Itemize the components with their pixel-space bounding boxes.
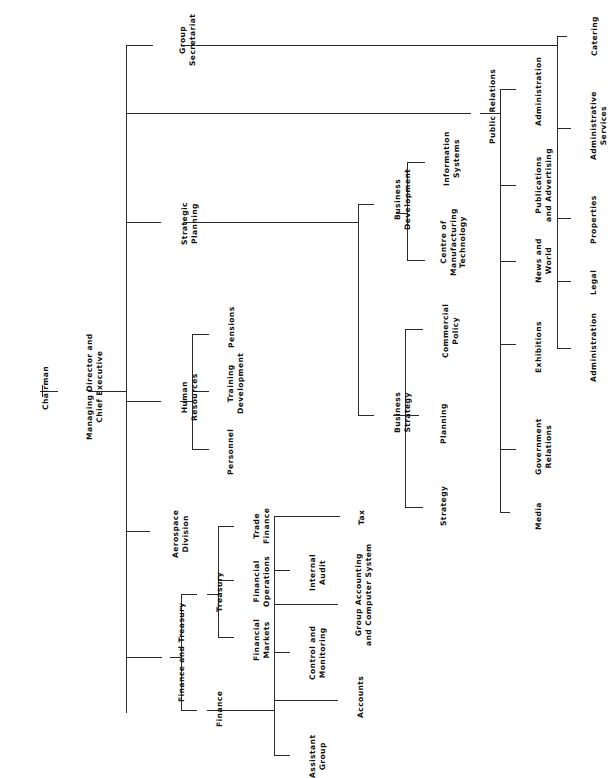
node-pr-administration: Administration bbox=[515, 57, 563, 126]
connector bbox=[274, 700, 338, 701]
node-strategic-planning: StrategicPlanning bbox=[161, 202, 218, 245]
node-legal: Legal bbox=[570, 270, 611, 295]
connector bbox=[274, 755, 290, 756]
connector bbox=[181, 594, 197, 595]
node-financial-operations: FinancialOperations bbox=[233, 556, 290, 607]
connector bbox=[557, 128, 571, 129]
node-group-secretariat: GroupSecretariat bbox=[159, 14, 216, 66]
node-media: Media bbox=[515, 502, 563, 530]
node-group-accounting: Group Accountingand Computer System bbox=[335, 543, 392, 646]
node-managing-director: Managing Director andChief Executive bbox=[66, 333, 123, 440]
main-trunk bbox=[126, 45, 127, 713]
node-administrative-services: AdministrativeServices bbox=[570, 91, 611, 160]
node-government-relations: GovernmentRelations bbox=[515, 418, 572, 475]
connector bbox=[405, 329, 423, 330]
connector bbox=[126, 401, 161, 402]
node-catering: Catering bbox=[571, 16, 611, 56]
connector bbox=[126, 531, 150, 532]
node-training-development: TrainingDevelopment bbox=[207, 353, 264, 414]
connector bbox=[126, 222, 161, 223]
connector bbox=[500, 512, 510, 513]
node-commercial-policy: CommercialPolicy bbox=[422, 304, 479, 358]
connector bbox=[358, 204, 359, 415]
connector bbox=[192, 334, 209, 335]
connector bbox=[126, 657, 162, 658]
node-exhibitions: Exhibitions bbox=[515, 321, 563, 373]
connector bbox=[358, 415, 374, 416]
node-as-administration: Administration bbox=[570, 313, 611, 382]
connector bbox=[358, 204, 374, 205]
connector bbox=[500, 449, 516, 450]
node-news-world: News andWorld bbox=[515, 238, 572, 283]
node-strategy: Strategy bbox=[420, 486, 468, 526]
connector bbox=[126, 113, 471, 114]
node-accounts: Accounts bbox=[337, 676, 385, 718]
node-pensions: Pensions bbox=[208, 306, 256, 348]
connector bbox=[181, 710, 197, 711]
node-trade-finance: TradeFinance bbox=[233, 508, 290, 544]
connector bbox=[557, 36, 567, 37]
connector bbox=[181, 45, 558, 46]
node-chairman: Chairman bbox=[22, 366, 70, 410]
node-finance-treasury: Finance and Treasury bbox=[158, 602, 206, 702]
node-centre-manufacturing: Centre ofManufacturingTechnology bbox=[420, 208, 487, 276]
connector bbox=[218, 637, 234, 638]
connector bbox=[500, 344, 516, 345]
node-financial-markets: FinancialMarkets bbox=[233, 619, 290, 661]
node-finance: Finance bbox=[196, 691, 244, 727]
node-properties: Properties bbox=[570, 195, 611, 244]
connector bbox=[500, 185, 516, 186]
node-assistant-group: AssistantGroup bbox=[289, 735, 346, 778]
node-planning: Planning bbox=[420, 403, 468, 444]
connector bbox=[218, 526, 234, 527]
node-personnel: Personnel bbox=[207, 429, 255, 475]
connector bbox=[126, 45, 153, 46]
node-publications-advertising: Publicationsand Advertising bbox=[515, 148, 572, 222]
node-information-systems: InformationSystems bbox=[423, 131, 480, 186]
node-tax: Tax bbox=[338, 510, 386, 525]
node-aerospace-division: AerospaceDivision bbox=[152, 510, 209, 558]
connector bbox=[500, 261, 516, 262]
